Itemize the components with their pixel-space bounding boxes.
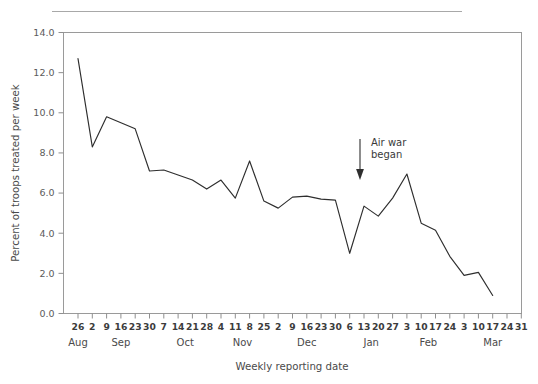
x-axis-month-label: Nov bbox=[233, 337, 253, 348]
chart-figure: 0.02.04.06.08.010.012.014.0 262916233071… bbox=[0, 0, 538, 384]
x-tick-label: 30 bbox=[329, 321, 342, 332]
x-tick-label: 23 bbox=[129, 321, 142, 332]
x-axis-labels-group: 2629162330714212841182529162330613202731… bbox=[72, 321, 528, 332]
x-tick-label: 27 bbox=[386, 321, 399, 332]
y-axis-group: 0.02.04.06.08.010.012.014.0 bbox=[33, 27, 63, 319]
x-axis-month-group: AugSepOctNovDecJanFebMar bbox=[68, 337, 503, 348]
x-tick-label: 2 bbox=[275, 321, 281, 332]
x-axis-month-label: Oct bbox=[177, 337, 194, 348]
x-tick-label: 8 bbox=[246, 321, 252, 332]
x-axis-month-label: Aug bbox=[68, 337, 88, 348]
x-tick-label: 10 bbox=[415, 321, 428, 332]
y-tick-label: 6.0 bbox=[39, 187, 54, 198]
annotation-line-1: Air war bbox=[371, 137, 407, 148]
y-tick-label: 4.0 bbox=[39, 228, 54, 239]
x-tick-label: 30 bbox=[143, 321, 156, 332]
x-tick-label: 25 bbox=[258, 321, 271, 332]
y-tick-label: 8.0 bbox=[39, 147, 54, 158]
x-axis-month-label: Mar bbox=[483, 337, 503, 348]
x-tick-label: 21 bbox=[186, 321, 199, 332]
y-tick-label: 14.0 bbox=[33, 27, 54, 38]
y-tick-label: 0.0 bbox=[39, 308, 54, 319]
x-axis-title: Weekly reporting date bbox=[235, 361, 348, 372]
x-tick-label: 24 bbox=[501, 321, 514, 332]
x-tick-label: 9 bbox=[103, 321, 109, 332]
x-tick-label: 3 bbox=[461, 321, 467, 332]
annotation-arrow-head bbox=[356, 169, 364, 180]
x-tick-label: 14 bbox=[172, 321, 185, 332]
plot-frame bbox=[64, 33, 522, 314]
x-tick-label: 20 bbox=[372, 321, 385, 332]
x-tick-label: 11 bbox=[229, 321, 242, 332]
x-tick-label: 28 bbox=[200, 321, 213, 332]
x-tick-label: 26 bbox=[72, 321, 85, 332]
y-tick-label: 12.0 bbox=[33, 67, 54, 78]
x-tick-label: 24 bbox=[443, 321, 456, 332]
x-tick-label: 17 bbox=[486, 321, 499, 332]
line-chart-canvas: 0.02.04.06.08.010.012.014.0 262916233071… bbox=[0, 0, 538, 384]
x-tick-label: 17 bbox=[429, 321, 442, 332]
air-war-annotation: Air war began bbox=[356, 137, 407, 180]
x-tick-label: 3 bbox=[404, 321, 410, 332]
x-tick-label: 7 bbox=[161, 321, 167, 332]
x-axis-month-label: Feb bbox=[419, 337, 437, 348]
x-axis-ticks-group bbox=[78, 314, 521, 319]
x-axis-month-label: Dec bbox=[297, 337, 316, 348]
x-tick-label: 10 bbox=[472, 321, 485, 332]
annotation-line-2: began bbox=[371, 149, 402, 160]
y-axis-title: Percent of troops treated per week bbox=[10, 84, 21, 262]
x-tick-label: 31 bbox=[515, 321, 528, 332]
x-tick-label: 16 bbox=[300, 321, 313, 332]
x-axis-month-label: Jan bbox=[362, 337, 378, 348]
y-tick-label: 10.0 bbox=[33, 107, 54, 118]
x-tick-label: 6 bbox=[346, 321, 352, 332]
y-tick-label: 2.0 bbox=[39, 268, 54, 279]
data-series-line bbox=[78, 59, 493, 296]
x-tick-label: 13 bbox=[358, 321, 371, 332]
x-tick-label: 23 bbox=[315, 321, 328, 332]
x-tick-label: 16 bbox=[115, 321, 128, 332]
x-tick-label: 4 bbox=[218, 321, 224, 332]
x-tick-label: 2 bbox=[89, 321, 95, 332]
x-tick-label: 9 bbox=[289, 321, 295, 332]
x-axis-month-label: Sep bbox=[111, 337, 130, 348]
